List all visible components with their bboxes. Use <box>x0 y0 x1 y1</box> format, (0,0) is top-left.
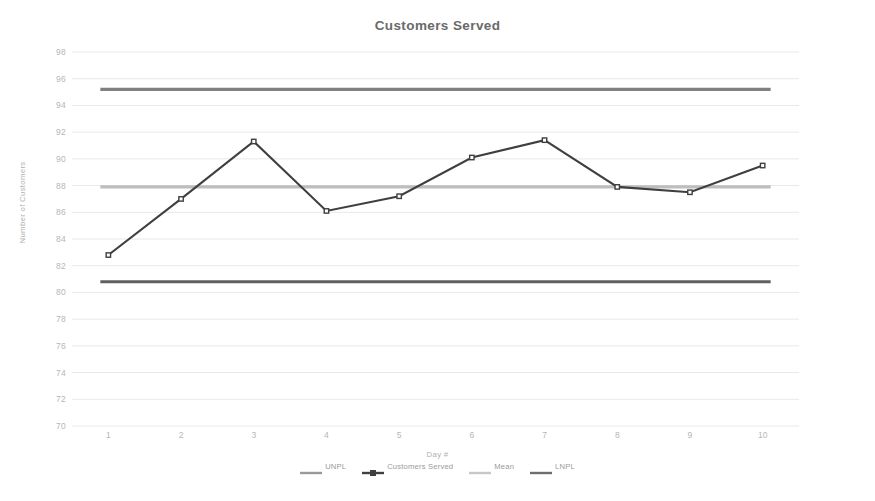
legend-label: Customers Served <box>387 462 453 471</box>
x-tick-label: 6 <box>452 430 492 440</box>
y-tick-label: 96 <box>38 74 66 84</box>
data-point-marker <box>470 155 474 159</box>
y-tick-label: 92 <box>38 127 66 137</box>
data-point-marker <box>179 197 183 201</box>
x-tick-label: 4 <box>306 430 346 440</box>
y-tick-label: 94 <box>38 100 66 110</box>
y-tick-label: 86 <box>38 207 66 217</box>
data-point-marker <box>324 209 328 213</box>
x-tick-label: 8 <box>597 430 637 440</box>
y-axis-tick-labels: 707274767880828486889092949698 <box>34 52 66 426</box>
x-tick-label: 5 <box>379 430 419 440</box>
chart-title: Customers Served <box>0 18 875 33</box>
legend-swatch-icon <box>362 463 384 471</box>
x-tick-label: 7 <box>525 430 565 440</box>
x-tick-label: 10 <box>743 430 783 440</box>
data-point-marker <box>615 185 619 189</box>
legend-item[interactable]: UNPL <box>300 462 346 471</box>
y-tick-label: 98 <box>38 47 66 57</box>
chart-legend: UNPLCustomers ServedMeanLNPL <box>0 462 875 471</box>
y-tick-label: 82 <box>38 261 66 271</box>
x-axis-title: Day # <box>0 450 875 459</box>
legend-swatch-icon <box>300 463 322 471</box>
data-point-marker <box>106 253 110 257</box>
plot-area <box>72 52 799 426</box>
legend-swatch-icon <box>530 463 552 471</box>
y-tick-label: 72 <box>38 394 66 404</box>
legend-item[interactable]: LNPL <box>530 462 575 471</box>
y-tick-label: 80 <box>38 287 66 297</box>
y-tick-label: 76 <box>38 341 66 351</box>
y-tick-label: 88 <box>38 181 66 191</box>
y-tick-label: 84 <box>38 234 66 244</box>
y-tick-label: 74 <box>38 368 66 378</box>
data-point-marker <box>397 194 401 198</box>
legend-swatch-icon <box>469 463 491 471</box>
y-tick-label: 78 <box>38 314 66 324</box>
x-tick-label: 9 <box>670 430 710 440</box>
legend-label: Mean <box>494 462 514 471</box>
data-point-marker <box>760 163 764 167</box>
data-point-marker <box>252 139 256 143</box>
y-tick-label: 70 <box>38 421 66 431</box>
legend-label: LNPL <box>555 462 575 471</box>
x-tick-label: 3 <box>234 430 274 440</box>
y-tick-label: 90 <box>38 154 66 164</box>
x-tick-label: 1 <box>88 430 128 440</box>
data-point-marker <box>542 138 546 142</box>
x-axis-tick-labels: 12345678910 <box>72 430 799 446</box>
legend-item[interactable]: Customers Served <box>362 462 453 471</box>
plot-svg <box>72 52 799 426</box>
legend-label: UNPL <box>325 462 346 471</box>
series-line-customers-served <box>108 140 762 255</box>
legend-item[interactable]: Mean <box>469 462 514 471</box>
chart-container: Customers Served Number of Customers 707… <box>0 0 875 501</box>
x-tick-label: 2 <box>161 430 201 440</box>
y-axis-title: Number of Customers <box>18 138 27 268</box>
data-point-marker <box>688 190 692 194</box>
